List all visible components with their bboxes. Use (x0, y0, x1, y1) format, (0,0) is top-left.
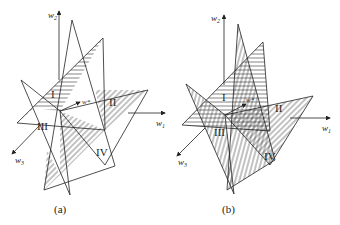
w3-label: w3 (15, 155, 24, 166)
w1-label: w1 (322, 123, 331, 134)
region-I-label: I (51, 88, 55, 100)
region-III-label: III (214, 126, 225, 138)
caption-b: (b) (222, 203, 235, 216)
w3-axis (177, 128, 205, 156)
region-IV-label: IV (96, 146, 108, 158)
diagram-canvas: w2 w1 w3 w* I II III IV (a) w2 w1 w3 w* … (0, 0, 340, 225)
region-III-label: III (37, 120, 48, 132)
region-I-label: I (222, 91, 226, 103)
w3-label: w3 (178, 157, 187, 168)
w-star-label: w* (82, 98, 91, 106)
plane-slant-hatch (182, 42, 270, 131)
region-lower-hatch (44, 150, 60, 190)
w2-label: w2 (211, 13, 220, 24)
panel-a: w2 w1 w3 w* I II III IV (a) (12, 10, 165, 216)
w2-label: w2 (48, 10, 57, 21)
region-II-label: II (109, 96, 117, 108)
region-IV-label: IV (264, 150, 276, 162)
w-star-label: w* (246, 96, 255, 104)
panel-b: w2 w1 w3 w* I II III IV (b) (177, 13, 331, 216)
region-II-label: II (275, 102, 283, 114)
w3-axis (12, 125, 40, 154)
w1-label: w1 (156, 118, 165, 129)
caption-a: (a) (54, 203, 67, 216)
